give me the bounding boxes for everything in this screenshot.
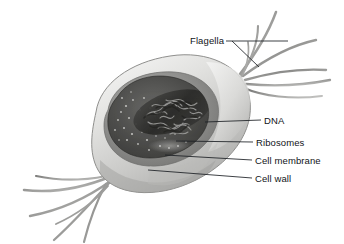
flagella-lower-left [24,174,114,242]
flagella-upper-right [238,12,330,98]
figure-canvas: Flagella DNA Ribosomes Cell membrane Cel… [0,0,344,244]
label-ribosomes: Ribosomes [256,138,304,148]
label-flagella: Flagella [190,36,224,46]
label-cell-wall: Cell wall [255,174,291,184]
label-dna: DNA [264,116,284,126]
label-cell-membrane: Cell membrane [255,156,321,166]
bacterial-cell-illustration [0,0,344,244]
